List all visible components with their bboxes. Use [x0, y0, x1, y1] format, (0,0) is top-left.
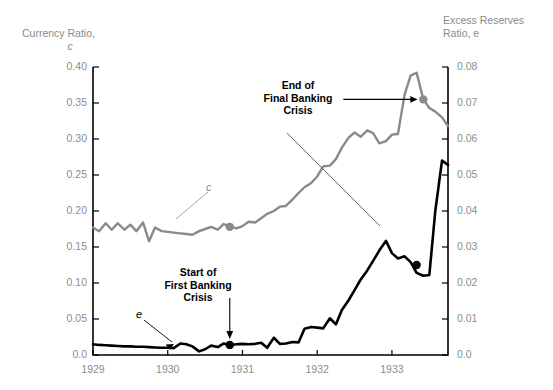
- x-axis-tick-label: 1929: [63, 363, 123, 375]
- annotation-target-marker-end-of-final-banking-crisis: [419, 95, 427, 103]
- data-point-marker-c-marker-start-first-crisis: [226, 223, 234, 231]
- left-axis-tick-label: 0.30: [37, 132, 87, 144]
- right-axis-tick-label: 0.05: [457, 168, 477, 180]
- right-axis-tick-label: 0.02: [457, 276, 477, 288]
- x-axis-tick-label: 1933: [362, 363, 422, 375]
- left-axis-tick-label: 0.40: [37, 60, 87, 72]
- x-axis-tick-label: 1930: [138, 363, 198, 375]
- annotation-arrow-start-crisis-head: [226, 331, 233, 339]
- right-axis-title: Excess Reserves Ratio, e: [443, 14, 547, 40]
- right-axis-tick-label: 0.01: [457, 312, 477, 324]
- left-axis-tick-label: 0.10: [37, 276, 87, 288]
- data-point-marker-e-marker-end-final-crisis: [412, 261, 420, 269]
- right-axis-tick-label: 0.06: [457, 132, 477, 144]
- x-axis-tick-label: 1931: [212, 363, 272, 375]
- right-axis-tick-label: 0.08: [457, 60, 477, 72]
- annotation-target-marker-start-of-first-banking-crisis: [226, 341, 234, 349]
- annotation-start-of-first-banking-crisis: Start of First Banking Crisis: [142, 266, 254, 304]
- left-axis-tick-label: 0.05: [37, 312, 87, 324]
- chart-figure: Currency Ratio, c Excess Reserves Ratio,…: [0, 0, 553, 390]
- left-axis-tick-label: 0.35: [37, 96, 87, 108]
- annotation-leader-end-crisis-diagonal: [287, 133, 380, 226]
- annotation-leader-layer: [144, 96, 417, 350]
- left-axis-tick-label: 0.0: [37, 348, 87, 360]
- c-curve-label: c: [206, 181, 212, 193]
- c-curve-leader-line: [176, 192, 208, 219]
- series-line-e: [93, 161, 448, 352]
- right-axis-tick-label: 0.0: [457, 348, 472, 360]
- left-axis-title-symbol: c: [22, 40, 118, 53]
- e-curve-label: e: [136, 308, 142, 320]
- left-axis-tick-label: 0.20: [37, 204, 87, 216]
- annotation-arrow-end-crisis-head: [410, 96, 417, 103]
- left-axis-title: Currency Ratio, c: [22, 14, 118, 66]
- left-axis-title-text: Currency Ratio,: [22, 27, 95, 39]
- left-axis-tick-label: 0.25: [37, 168, 87, 180]
- annotation-end-of-final-banking-crisis: End of Final Banking Crisis: [243, 79, 353, 117]
- right-axis-tick-label: 0.04: [457, 204, 477, 216]
- left-axis-tick-label: 0.15: [37, 240, 87, 252]
- right-axis-tick-label: 0.07: [457, 96, 477, 108]
- e-curve-leader-line: [144, 320, 172, 342]
- right-axis-tick-label: 0.03: [457, 240, 477, 252]
- x-axis-tick-label: 1932: [287, 363, 347, 375]
